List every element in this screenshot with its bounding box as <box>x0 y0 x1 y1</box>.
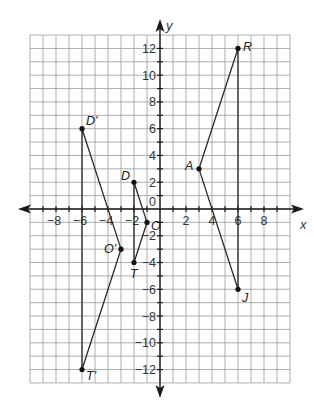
x-tick-label: 2 <box>183 214 190 228</box>
point-marker <box>79 367 84 372</box>
point-label: T' <box>86 369 97 383</box>
point-marker <box>235 287 240 292</box>
y-tick-label: −4 <box>142 256 156 270</box>
point-marker <box>196 166 201 171</box>
coordinate-plane: xy −8−6−4−22468−12−10−8−6−4−2246810120 R… <box>0 0 314 406</box>
x-tick-label: −2 <box>125 214 139 228</box>
point-label: O <box>151 219 161 233</box>
point-marker <box>131 180 136 185</box>
point-marker <box>235 46 240 51</box>
point-label: J <box>241 291 249 305</box>
x-axis-label: x <box>299 217 307 232</box>
x-tick-label: −6 <box>73 214 87 228</box>
y-tick-label: 12 <box>142 42 156 56</box>
y-tick-label: −12 <box>135 363 156 377</box>
point-marker <box>79 126 84 131</box>
y-tick-label: −8 <box>142 310 156 324</box>
points: RAJDOTD'O'T' <box>79 40 252 382</box>
y-tick-label: 4 <box>149 149 156 163</box>
y-tick-label: 6 <box>149 122 156 136</box>
point-label: D <box>121 169 130 183</box>
y-tick-label: −6 <box>142 283 156 297</box>
point-marker <box>118 247 123 252</box>
y-axis-label: y <box>165 18 174 33</box>
y-tick-label: 10 <box>142 69 156 83</box>
point-label: A <box>184 159 193 173</box>
y-tick-label: 8 <box>149 95 156 109</box>
x-tick-label: 8 <box>261 214 268 228</box>
y-tick-label: −10 <box>135 336 156 350</box>
origin-label: 0 <box>149 195 156 209</box>
x-tick-label: −8 <box>47 214 61 228</box>
point-label: O' <box>104 242 117 256</box>
point-marker <box>131 260 136 265</box>
y-tick-label: 2 <box>149 176 156 190</box>
point-marker <box>144 220 149 225</box>
point-label: D' <box>86 114 98 128</box>
point-label: T <box>130 267 139 281</box>
point-label: R <box>243 40 252 54</box>
x-tick-label: −4 <box>99 214 113 228</box>
